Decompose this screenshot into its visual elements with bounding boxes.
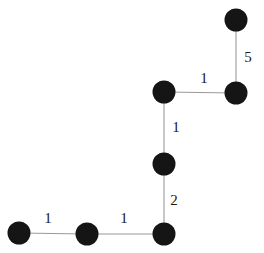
graph-node bbox=[8, 222, 31, 245]
graph-node bbox=[153, 153, 176, 176]
edge-weight-label: 1 bbox=[172, 120, 180, 135]
weighted-graph-figure: 112115 bbox=[0, 0, 264, 253]
edge-weight-label: 2 bbox=[170, 193, 178, 208]
edge-weight-label: 1 bbox=[44, 211, 52, 226]
graph-node bbox=[153, 223, 176, 246]
edge-weight-label: 1 bbox=[120, 211, 128, 226]
edge-weight-label: 5 bbox=[244, 50, 252, 65]
graph-canvas bbox=[0, 0, 264, 253]
graph-node bbox=[153, 81, 176, 104]
graph-node bbox=[76, 223, 99, 246]
graph-edges-group bbox=[19, 20, 236, 234]
edge-weight-label: 1 bbox=[200, 71, 208, 86]
graph-node bbox=[225, 9, 248, 32]
graph-node bbox=[225, 82, 248, 105]
